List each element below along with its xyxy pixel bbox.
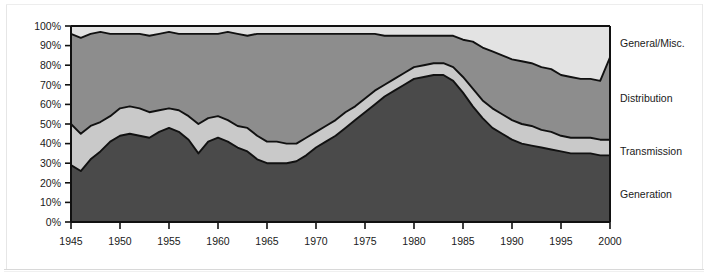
x-tick-label: 1975 <box>353 235 377 247</box>
y-tick-label: 40% <box>40 137 61 149</box>
x-tick-label: 1985 <box>451 235 475 247</box>
y-tick-label: 50% <box>40 118 61 130</box>
chart-areas <box>71 26 610 222</box>
x-tick-label: 1955 <box>157 235 181 247</box>
y-tick-label: 90% <box>40 39 61 51</box>
chart-svg: 0%10%20%30%40%50%60%70%80%90%100% 194519… <box>0 0 708 278</box>
y-tick-label: 100% <box>34 20 61 32</box>
x-tick-label: 1950 <box>108 235 132 247</box>
y-axis-ticks: 0%10%20%30%40%50%60%70%80%90%100% <box>34 20 71 228</box>
x-tick-label: 1970 <box>304 235 328 247</box>
y-tick-label: 20% <box>40 177 61 189</box>
stacked-area-chart: 0%10%20%30%40%50%60%70%80%90%100% 194519… <box>0 0 708 278</box>
x-tick-label: 2000 <box>598 235 622 247</box>
x-tick-label: 1980 <box>402 235 426 247</box>
legend-label-general: General/Misc. <box>620 37 685 49</box>
legend-label-transmission: Transmission <box>620 145 682 157</box>
x-tick-label: 1995 <box>549 235 573 247</box>
x-axis-ticks: 1945195019551960196519701975198019851990… <box>59 222 622 247</box>
legend-label-generation: Generation <box>620 188 672 200</box>
x-tick-label: 1960 <box>206 235 230 247</box>
x-tick-label: 1945 <box>59 235 83 247</box>
page-background: 0%10%20%30%40%50%60%70%80%90%100% 194519… <box>0 0 708 278</box>
y-tick-label: 10% <box>40 196 61 208</box>
y-tick-label: 60% <box>40 98 61 110</box>
y-tick-label: 70% <box>40 79 61 91</box>
y-tick-label: 80% <box>40 59 61 71</box>
x-tick-label: 1965 <box>255 235 279 247</box>
x-tick-label: 1990 <box>500 235 524 247</box>
legend-label-distribution: Distribution <box>620 92 673 104</box>
y-tick-label: 0% <box>46 216 61 228</box>
chart-legend: General/Misc.DistributionTransmissionGen… <box>620 37 685 200</box>
y-tick-label: 30% <box>40 157 61 169</box>
